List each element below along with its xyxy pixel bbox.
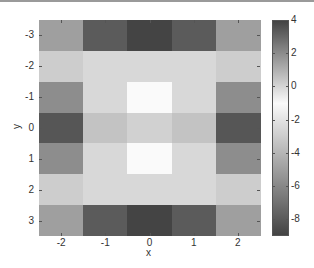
heatmap-cell bbox=[83, 174, 128, 205]
heatmap-cell bbox=[83, 143, 128, 174]
x-tick-label: -1 bbox=[95, 238, 115, 248]
heatmap-cell bbox=[127, 82, 172, 113]
x-tick-mark bbox=[238, 233, 239, 236]
x-tick-label: -2 bbox=[51, 238, 71, 248]
heatmap-cell bbox=[83, 113, 128, 144]
colorbar-tick-label: -8 bbox=[291, 214, 300, 224]
colorbar-tick-mark bbox=[286, 120, 289, 121]
heatmap-cell bbox=[216, 82, 261, 113]
y-tick-mark bbox=[257, 159, 260, 160]
heatmap-cell bbox=[172, 113, 217, 144]
y-tick-label: 2 bbox=[14, 185, 34, 195]
y-tick-mark bbox=[257, 35, 260, 36]
y-tick-label: -2 bbox=[14, 61, 34, 71]
x-tick-mark bbox=[61, 20, 62, 23]
y-tick-mark bbox=[257, 190, 260, 191]
y-tick-label: 1 bbox=[14, 154, 34, 164]
heatmap-cell bbox=[216, 51, 261, 82]
y-tick-mark bbox=[39, 159, 42, 160]
colorbar-tick-mark bbox=[272, 120, 275, 121]
heatmap-cell bbox=[39, 20, 84, 51]
y-tick-label: 3 bbox=[14, 216, 34, 226]
y-tick-mark bbox=[39, 35, 42, 36]
heatmap-cell bbox=[39, 205, 84, 236]
colorbar-tick-mark bbox=[286, 86, 289, 87]
heatmap-plot-area bbox=[39, 20, 260, 236]
heatmap-cell bbox=[39, 82, 84, 113]
y-tick-mark bbox=[39, 66, 42, 67]
x-tick-mark bbox=[61, 233, 62, 236]
heatmap-cell bbox=[83, 82, 128, 113]
x-tick-label: 1 bbox=[184, 238, 204, 248]
heatmap-cell bbox=[83, 51, 128, 82]
heatmap-cell bbox=[83, 20, 128, 51]
heatmap-cell bbox=[216, 143, 261, 174]
y-tick-mark bbox=[257, 97, 260, 98]
heatmap-cell bbox=[127, 174, 172, 205]
y-axis-label: y bbox=[11, 124, 22, 129]
heatmap-cell bbox=[172, 205, 217, 236]
x-axis-label: x bbox=[146, 247, 151, 258]
y-tick-mark bbox=[39, 97, 42, 98]
colorbar-tick-mark bbox=[272, 86, 275, 87]
top-border-line bbox=[0, 0, 314, 2]
heatmap-cell bbox=[172, 51, 217, 82]
x-tick-mark bbox=[105, 20, 106, 23]
y-tick-mark bbox=[39, 128, 42, 129]
colorbar-tick-mark bbox=[272, 186, 275, 187]
colorbar-tick-label: -4 bbox=[291, 148, 300, 158]
heatmap-cell bbox=[216, 174, 261, 205]
heatmap-cell bbox=[216, 205, 261, 236]
y-tick-mark bbox=[257, 66, 260, 67]
heatmap-cell bbox=[127, 143, 172, 174]
heatmap-cell bbox=[216, 113, 261, 144]
x-tick-mark bbox=[150, 233, 151, 236]
heatmap-cell bbox=[172, 82, 217, 113]
y-tick-mark bbox=[39, 221, 42, 222]
colorbar-tick-mark bbox=[286, 53, 289, 54]
heatmap-cell bbox=[172, 174, 217, 205]
colorbar-tick-label: 2 bbox=[291, 48, 297, 58]
x-tick-mark bbox=[150, 20, 151, 23]
colorbar-tick-mark bbox=[272, 53, 275, 54]
heatmap-cell bbox=[127, 20, 172, 51]
heatmap-cell bbox=[172, 143, 217, 174]
heatmap-cell bbox=[172, 20, 217, 51]
y-tick-label: -1 bbox=[14, 92, 34, 102]
heatmap-cell bbox=[39, 113, 84, 144]
heatmap-cell bbox=[39, 51, 84, 82]
heatmap-cell bbox=[127, 205, 172, 236]
x-tick-mark bbox=[238, 20, 239, 23]
x-tick-label: 2 bbox=[228, 238, 248, 248]
x-tick-mark bbox=[105, 233, 106, 236]
y-tick-mark bbox=[257, 221, 260, 222]
heatmap-cell bbox=[39, 174, 84, 205]
colorbar-tick-mark bbox=[272, 219, 275, 220]
y-tick-mark bbox=[257, 128, 260, 129]
colorbar-tick-label: -6 bbox=[291, 181, 300, 191]
colorbar-tick-label: 0 bbox=[291, 81, 297, 91]
colorbar-tick-mark bbox=[272, 153, 275, 154]
colorbar-tick-label: -2 bbox=[291, 115, 300, 125]
x-tick-mark bbox=[194, 233, 195, 236]
colorbar-tick-mark bbox=[272, 20, 275, 21]
colorbar-tick-mark bbox=[286, 153, 289, 154]
colorbar-tick-label: 4 bbox=[291, 15, 297, 25]
x-tick-mark bbox=[194, 20, 195, 23]
y-tick-mark bbox=[39, 190, 42, 191]
heatmap-cell bbox=[83, 205, 128, 236]
heatmap-cell bbox=[216, 20, 261, 51]
colorbar-tick-mark bbox=[286, 186, 289, 187]
heatmap-cell bbox=[127, 113, 172, 144]
heatmap-cell bbox=[39, 143, 84, 174]
y-tick-label: -3 bbox=[14, 30, 34, 40]
colorbar-tick-mark bbox=[286, 20, 289, 21]
colorbar-tick-mark bbox=[286, 219, 289, 220]
heatmap-cell bbox=[127, 51, 172, 82]
